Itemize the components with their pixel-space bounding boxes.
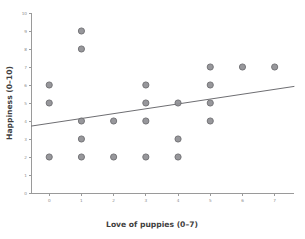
scatter-plot-figure: 012345678910 01234567 Love of puppies (0… xyxy=(0,0,305,239)
data-point xyxy=(111,118,117,124)
x-tick-label: 4 xyxy=(177,198,180,203)
y-axis-ticks: 012345678910 xyxy=(22,11,32,196)
y-tick-label: 0 xyxy=(24,191,27,196)
x-axis-ticks: 01234567 xyxy=(48,193,276,203)
data-point xyxy=(78,136,84,142)
y-tick-label: 9 xyxy=(24,29,27,34)
data-point xyxy=(46,82,52,88)
x-tick-label: 0 xyxy=(48,198,51,203)
y-tick-label: 4 xyxy=(24,119,27,124)
data-point xyxy=(46,100,52,106)
x-tick-label: 2 xyxy=(112,198,115,203)
y-tick-label: 1 xyxy=(24,173,27,178)
data-point xyxy=(111,154,117,160)
data-point xyxy=(207,64,213,70)
x-tick-label: 1 xyxy=(80,198,83,203)
y-tick-label: 5 xyxy=(24,101,27,106)
data-point xyxy=(143,100,149,106)
data-point xyxy=(78,46,84,52)
y-tick-label: 8 xyxy=(24,47,27,52)
data-point xyxy=(143,82,149,88)
x-axis-title: Love of puppies (0–7) xyxy=(106,220,198,229)
y-tick-label: 6 xyxy=(24,83,27,88)
data-point xyxy=(207,118,213,124)
chart-canvas: 012345678910 01234567 Love of puppies (0… xyxy=(0,0,305,239)
data-point xyxy=(239,64,245,70)
regression-line xyxy=(32,86,295,126)
x-tick-label: 3 xyxy=(145,198,148,203)
y-axis-title: Happiness (0–10) xyxy=(5,66,14,140)
data-point xyxy=(78,154,84,160)
data-point xyxy=(272,64,278,70)
y-tick-label: 10 xyxy=(22,11,28,16)
x-tick-label: 6 xyxy=(241,198,244,203)
data-point xyxy=(78,28,84,34)
data-point xyxy=(207,100,213,106)
data-point xyxy=(143,154,149,160)
x-tick-label: 7 xyxy=(273,198,276,203)
y-tick-label: 3 xyxy=(24,137,27,142)
data-point xyxy=(78,118,84,124)
data-point xyxy=(143,118,149,124)
y-tick-label: 2 xyxy=(24,155,27,160)
y-tick-label: 7 xyxy=(24,65,27,70)
data-point xyxy=(46,154,52,160)
data-point xyxy=(175,100,181,106)
data-point xyxy=(207,82,213,88)
data-point xyxy=(175,154,181,160)
data-point xyxy=(175,136,181,142)
x-tick-label: 5 xyxy=(209,198,212,203)
